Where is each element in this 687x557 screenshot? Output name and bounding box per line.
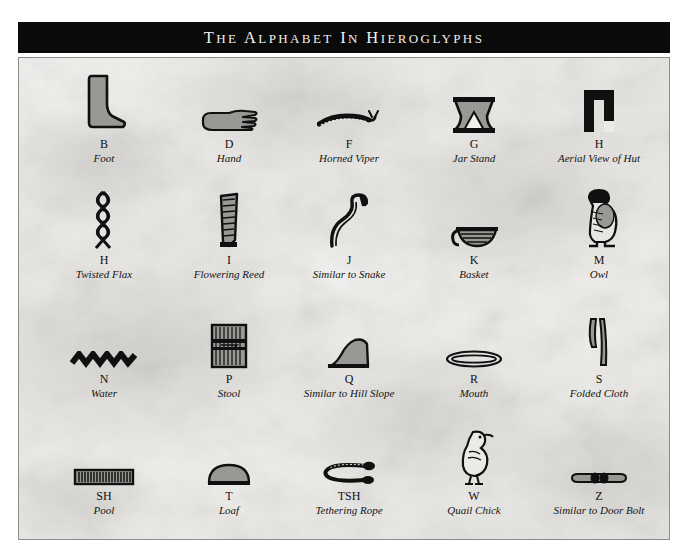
glyph-letter: H <box>39 253 169 268</box>
glyph-description: Owl <box>534 268 664 281</box>
owl-glyph <box>534 188 664 250</box>
glyph-description: Similar to Snake <box>284 268 414 281</box>
glyph-cell: DHand <box>164 72 294 165</box>
basket-glyph <box>409 188 539 250</box>
horned-viper-glyph <box>284 72 414 134</box>
pool-glyph <box>39 424 169 486</box>
glyph-letter: F <box>284 137 414 152</box>
hut-glyph <box>534 72 664 134</box>
glyph-letter: K <box>409 253 539 268</box>
folded-cloth-glyph <box>534 307 664 369</box>
glyph-cell: KBasket <box>409 188 539 281</box>
glyph-cell: GJar Stand <box>409 72 539 165</box>
glyph-cell: RMouth <box>409 307 539 400</box>
stool-glyph <box>164 307 294 369</box>
glyph-description: Tethering Rope <box>284 504 414 517</box>
page-title-rendered: THE ALPHABET IN HIEROGLYPHS <box>204 28 485 47</box>
jar-stand-glyph <box>409 72 539 134</box>
glyph-letter: M <box>534 253 664 268</box>
glyph-letter: Q <box>284 372 414 387</box>
glyph-letter: TSH <box>284 489 414 504</box>
glyph-letter: D <box>164 137 294 152</box>
glyph-cell: WQuail Chick <box>409 424 539 517</box>
glyph-letter: H <box>534 137 664 152</box>
glyph-letter: G <box>409 137 539 152</box>
glyph-description: Folded Cloth <box>534 387 664 400</box>
glyph-letter: S <box>534 372 664 387</box>
glyph-cell: BFoot <box>39 72 169 165</box>
quail-chick-glyph <box>409 424 539 486</box>
glyph-cell: TSHTethering Rope <box>284 424 414 517</box>
glyph-cell: QSimilar to Hill Slope <box>284 307 414 400</box>
glyph-description: Quail Chick <box>409 504 539 517</box>
glyph-description: Similar to Door Bolt <box>534 504 664 517</box>
glyph-letter: B <box>39 137 169 152</box>
glyph-letter: R <box>409 372 539 387</box>
glyph-description: Basket <box>409 268 539 281</box>
glyph-cell: TLoaf <box>164 424 294 517</box>
glyph-description: Horned Viper <box>284 152 414 165</box>
glyph-description: Jar Stand <box>409 152 539 165</box>
glyph-description: Twisted Flax <box>39 268 169 281</box>
glyph-cell: MOwl <box>534 188 664 281</box>
glyph-description: Aerial View of Hut <box>534 152 664 165</box>
mouth-glyph <box>409 307 539 369</box>
glyph-cell: HTwisted Flax <box>39 188 169 281</box>
glyph-description: Flowering Reed <box>164 268 294 281</box>
glyph-cell: ZSimilar to Door Bolt <box>534 424 664 517</box>
glyph-letter: I <box>164 253 294 268</box>
glyph-cell: IFlowering Reed <box>164 188 294 281</box>
hand-glyph <box>164 72 294 134</box>
glyph-cell: PStool <box>164 307 294 400</box>
glyph-description: Hand <box>164 152 294 165</box>
glyph-letter: P <box>164 372 294 387</box>
water-glyph <box>39 307 169 369</box>
glyph-description: Similar to Hill Slope <box>284 387 414 400</box>
glyph-description: Water <box>39 387 169 400</box>
glyph-cell: NWater <box>39 307 169 400</box>
tethering-rope-glyph <box>284 424 414 486</box>
page-title: The Alphabet In Hieroglyphs THE ALPHABET… <box>204 28 485 48</box>
poster-title-bar: The Alphabet In Hieroglyphs THE ALPHABET… <box>18 22 670 53</box>
door-bolt-glyph <box>534 424 664 486</box>
glyph-cell: FHorned Viper <box>284 72 414 165</box>
glyph-grid: BFootDHandFHorned ViperGJar StandHAerial… <box>19 58 669 539</box>
glyph-letter: J <box>284 253 414 268</box>
glyph-letter: N <box>39 372 169 387</box>
glyph-description: Loaf <box>164 504 294 517</box>
flowering-reed-glyph <box>164 188 294 250</box>
parchment-panel: BFootDHandFHorned ViperGJar StandHAerial… <box>18 57 670 540</box>
glyph-description: Pool <box>39 504 169 517</box>
hill-slope-glyph <box>284 307 414 369</box>
glyph-letter: T <box>164 489 294 504</box>
foot-glyph <box>39 72 169 134</box>
glyph-description: Foot <box>39 152 169 165</box>
glyph-description: Stool <box>164 387 294 400</box>
twisted-flax-glyph <box>39 188 169 250</box>
glyph-letter: SH <box>39 489 169 504</box>
snake-glyph <box>284 188 414 250</box>
glyph-letter: Z <box>534 489 664 504</box>
glyph-description: Mouth <box>409 387 539 400</box>
glyph-cell: SFolded Cloth <box>534 307 664 400</box>
glyph-letter: W <box>409 489 539 504</box>
glyph-cell: JSimilar to Snake <box>284 188 414 281</box>
loaf-glyph <box>164 424 294 486</box>
glyph-cell: SHPool <box>39 424 169 517</box>
glyph-cell: HAerial View of Hut <box>534 72 664 165</box>
hieroglyph-alphabet-poster: The Alphabet In Hieroglyphs THE ALPHABET… <box>0 0 687 557</box>
